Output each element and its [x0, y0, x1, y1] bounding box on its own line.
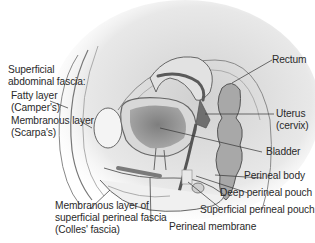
label-colles-fascia: Membranous layer of superficial perineal… [55, 200, 167, 236]
label-perineal-body: Perineal body [244, 170, 305, 182]
label-superficial-perineal-pouch: Superficial perineal pouch [200, 204, 315, 216]
perineal-body [192, 183, 204, 193]
label-rectum: Rectum [272, 54, 307, 66]
label-fatty-layer: Fatty layer (Camper's) [11, 90, 60, 114]
label-uterus: Uterus (cervix) [276, 108, 309, 132]
pubic-symphysis [94, 108, 122, 148]
deep-pouch-area [182, 170, 192, 184]
label-perineal-membrane: Perineal membrane [169, 221, 256, 233]
label-deep-perineal-pouch: Deep perineal pouch [220, 187, 312, 199]
label-superficial-abdominal-fascia: Superficial abdominal fascia: [8, 64, 86, 88]
label-bladder: Bladder [266, 146, 300, 158]
label-membranous-layer: Membranous layer (Scarpa's) [11, 115, 94, 139]
anatomy-diagram: Superficial abdominal fascia: Fatty laye… [0, 0, 315, 243]
